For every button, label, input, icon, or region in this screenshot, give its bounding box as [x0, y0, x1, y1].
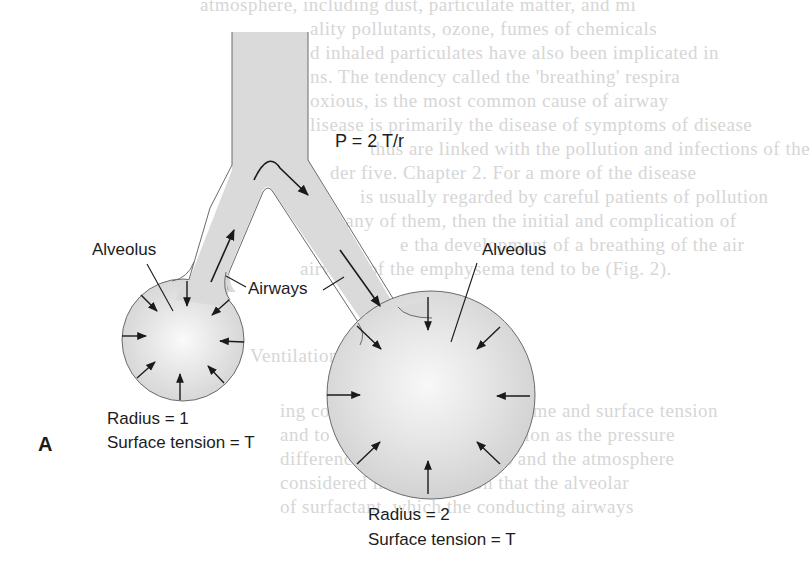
small-alveolus: [122, 262, 244, 401]
alveolus-small-label: Alveolus: [92, 241, 156, 258]
large-alveolus: [327, 291, 535, 499]
large-tension-label: Surface tension = T: [368, 531, 516, 548]
equation-label: P = 2 T/r: [335, 132, 404, 150]
small-radius-label: Radius = 1: [107, 410, 189, 427]
large-radius-label: Radius = 2: [368, 506, 450, 523]
small-tension-label: Surface tension = T: [107, 434, 255, 451]
panel-letter: A: [38, 434, 52, 454]
airways-label: Airways: [248, 280, 308, 297]
alveolus-large-label: Alveolus: [482, 241, 546, 258]
